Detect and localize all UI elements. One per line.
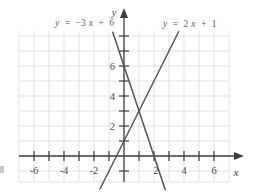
graph-figure: -6 -4 -2 2 4 6 2 4 6 x y y = −3 x + 6	[0, 0, 256, 196]
x-axis-arrow	[234, 152, 244, 160]
eq-left-equals: =	[65, 17, 70, 28]
equation-left-text: y = −3 x + 6	[54, 17, 114, 28]
eq-right-equals: =	[173, 18, 178, 29]
eq-left-intercept: 6	[109, 17, 114, 28]
x-tick-label: 2	[153, 165, 158, 176]
equation-label-left: y = −3 x + 6	[54, 17, 114, 28]
equation-label-right: y = 2 x + 1	[162, 18, 217, 29]
eq-right-intercept: 1	[212, 18, 217, 29]
coordinate-plane-svg: -6 -4 -2 2 4 6 2 4 6 x y y = −3 x + 6	[0, 0, 256, 196]
x-tick-label: -2	[90, 165, 99, 176]
axes	[19, 13, 238, 182]
y-tick-label: 6	[110, 61, 115, 72]
x-axis-label: x	[233, 167, 239, 178]
eq-right-slope: 2	[184, 18, 189, 29]
x-tick-label: 6	[211, 165, 216, 176]
equation-right-text: y = 2 x + 1	[162, 18, 217, 29]
eq-right-lhs: y	[162, 18, 168, 29]
x-tick-label: -4	[60, 165, 69, 176]
eq-right-plus: +	[201, 18, 206, 29]
eq-left-slope: −3	[76, 17, 86, 28]
x-tick-label: -6	[30, 165, 39, 176]
eq-right-variable: x	[190, 18, 196, 29]
eq-left-plus: +	[98, 17, 103, 28]
y-tick-labels: 2 4 6	[110, 61, 116, 132]
eq-left-lhs: y	[54, 17, 60, 28]
y-axis-arrow	[120, 8, 128, 18]
eq-left-variable: x	[88, 17, 94, 28]
y-tick-label: 4	[110, 91, 116, 102]
y-tick-label: 2	[110, 121, 115, 132]
x-tick-label: 4	[181, 165, 187, 176]
page-edge-artifact	[0, 166, 4, 173]
